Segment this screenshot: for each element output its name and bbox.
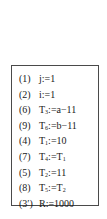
line-number: (8)	[19, 180, 39, 196]
statement: T3:=a−11	[39, 102, 76, 118]
code-line-3: (6) T3:=a−11	[19, 102, 98, 118]
statement: T4:=T1	[39, 149, 66, 165]
code-line-1: (1) j:=1	[19, 71, 98, 87]
statement: R:=1000	[39, 196, 74, 212]
line-number: (6)	[19, 102, 39, 118]
statement: j:=1	[39, 71, 55, 87]
statement: T1:=10	[39, 133, 67, 149]
line-number: (4)	[19, 133, 39, 149]
statement: T2:=11	[39, 165, 66, 181]
line-number: (7)	[19, 149, 39, 165]
code-line-2: (2) i:=1	[19, 87, 98, 103]
code-line-4: (9) T6:=b−11	[19, 118, 98, 134]
line-number: (1)	[19, 71, 39, 87]
line-number: (5)	[19, 165, 39, 181]
code-line-9: (3′) R:=1000	[19, 196, 98, 212]
statement: T5:=T2	[39, 180, 66, 196]
line-number: (3′)	[19, 196, 39, 212]
statement: T6:=b−11	[39, 118, 77, 134]
line-number: (2)	[19, 87, 39, 103]
statement: i:=1	[39, 87, 55, 103]
code-line-8: (8) T5:=T2	[19, 180, 98, 196]
code-line-7: (5) T2:=11	[19, 165, 98, 181]
code-line-5: (4) T1:=10	[19, 133, 98, 149]
line-number: (9)	[19, 118, 39, 134]
code-box: (1) j:=1 (2) i:=1 (6) T3:=a−11 (9) T6:=b…	[11, 65, 99, 206]
code-line-6: (7) T4:=T1	[19, 149, 98, 165]
